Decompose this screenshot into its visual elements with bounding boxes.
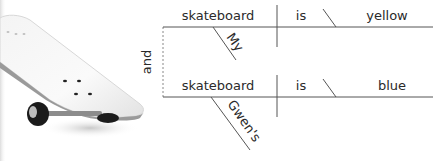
clause-1-verb: is [296, 8, 307, 23]
clause-1-modifier: My [224, 30, 247, 54]
wheel-front [27, 102, 49, 126]
skateboard-deck [0, 15, 143, 118]
clause-2-complement: blue [378, 78, 406, 93]
clause-2-subject: skateboard [182, 78, 255, 93]
conjunction-connector: and [139, 27, 163, 97]
truck-axle [42, 111, 102, 116]
clause-2-complement-slant [323, 79, 336, 97]
conjunction-word: and [139, 50, 154, 74]
clause-2-modifier: Gwen's [225, 97, 265, 145]
skateboard-image [0, 0, 144, 161]
clause-2-verb: is [296, 78, 307, 93]
wheel-back [97, 113, 119, 123]
clause-1: skateboard is yellow My [163, 5, 433, 60]
clause-1-complement: yellow [366, 8, 408, 23]
clause-1-subject: skateboard [182, 8, 255, 23]
board-shadow [42, 118, 138, 138]
clause-1-complement-slant [323, 9, 336, 27]
sentence-diagram-canvas: and skateboard is yellow My skateboard i… [0, 0, 440, 161]
clause-2: skateboard is blue Gwen's [163, 75, 433, 150]
